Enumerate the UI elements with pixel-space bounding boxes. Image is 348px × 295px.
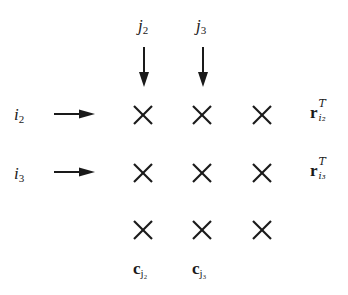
row-vector-r-i2: rTi₂ — [310, 104, 330, 124]
row-vector-r-i3: rTi₃ — [310, 162, 330, 182]
cross-marker-icon — [191, 219, 213, 241]
cross-marker-icon — [251, 219, 273, 241]
cross-marker-icon — [191, 104, 213, 126]
column-vector-c-j3: cj₃ — [192, 260, 206, 279]
down-arrow-icon — [136, 46, 152, 88]
column-vector-c-j2: cj₂ — [133, 260, 147, 279]
column-label-j3: j3 — [196, 17, 206, 36]
right-arrow-icon — [53, 165, 97, 179]
right-arrow-icon — [53, 107, 97, 121]
cross-marker-icon — [132, 104, 154, 126]
row-label-i3: i3 — [14, 165, 24, 184]
cross-marker-icon — [191, 162, 213, 184]
column-label-j2: j2 — [138, 17, 148, 36]
cross-marker-icon — [132, 219, 154, 241]
cross-marker-icon — [251, 162, 273, 184]
down-arrow-icon — [195, 46, 211, 88]
cross-marker-icon — [132, 162, 154, 184]
row-label-i2: i2 — [14, 106, 24, 125]
cross-marker-icon — [251, 104, 273, 126]
